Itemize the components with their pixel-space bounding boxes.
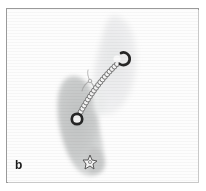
figure-panel: b bbox=[0, 0, 206, 191]
scan-canvas bbox=[7, 9, 198, 182]
lower-ring-marker bbox=[72, 114, 82, 124]
panel-label: b bbox=[15, 158, 23, 172]
